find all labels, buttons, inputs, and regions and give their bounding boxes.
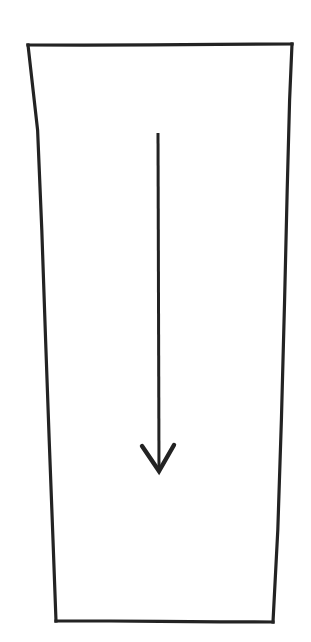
line-drawing [0,0,311,642]
container-bottom-edge [56,621,273,622]
arrow-shaft [158,133,159,470]
page-background [0,0,311,642]
container-top-edge [28,44,292,45]
figure-canvas [0,0,311,642]
